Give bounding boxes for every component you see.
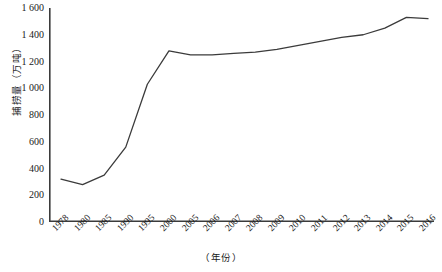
y-axis-tick-labels: 02004006008001 0001 2001 4001 600 bbox=[0, 0, 44, 272]
fishery-catch-line-chart: 捕捞量（万吨） 02004006008001 0001 2001 4001 60… bbox=[0, 0, 442, 272]
y-tick-label: 1 000 bbox=[2, 83, 44, 93]
y-tick-label: 0 bbox=[2, 217, 44, 227]
y-tick-label: 1 400 bbox=[2, 30, 44, 40]
y-tick-label: 600 bbox=[2, 137, 44, 147]
y-tick-label: 1 600 bbox=[2, 3, 44, 13]
y-tick-label: 1 200 bbox=[2, 57, 44, 67]
y-tick-label: 200 bbox=[2, 190, 44, 200]
plot-area bbox=[49, 8, 434, 222]
x-axis-tick-labels: 1978198019851990199520002005200620072008… bbox=[49, 222, 434, 252]
y-tick-label: 400 bbox=[2, 164, 44, 174]
x-axis-title: （年份） bbox=[0, 250, 442, 264]
catch-volume-series bbox=[49, 8, 434, 222]
y-tick-label: 800 bbox=[2, 110, 44, 120]
